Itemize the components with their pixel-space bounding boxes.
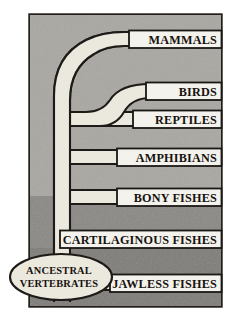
phylogenetic-tree-figure: MAMMALS BIRDS REPTILES AMPHIBIANS BONY F… [0, 0, 238, 326]
ancestral-label-line1: ANCESTRAL [26, 265, 92, 276]
label-mammals: MAMMALS [149, 33, 217, 47]
label-amphibians: AMPHIBIANS [136, 151, 217, 165]
ancestral-vertebrates-node: ANCESTRAL VERTEBRATES [10, 254, 112, 300]
label-cartilaginous-fishes: CARTILAGINOUS FISHES [63, 233, 217, 247]
label-jawless-fishes: JAWLESS FISHES [112, 277, 217, 291]
ancestral-label-line2: VERTEBRATES [20, 278, 98, 289]
label-reptiles: REPTILES [155, 113, 217, 127]
label-birds: BIRDS [179, 85, 217, 99]
label-bony-fishes: BONY FISHES [134, 191, 217, 205]
